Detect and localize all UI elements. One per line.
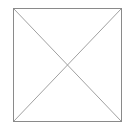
image-placeholder-icon <box>14 9 121 121</box>
image-placeholder <box>13 8 122 122</box>
